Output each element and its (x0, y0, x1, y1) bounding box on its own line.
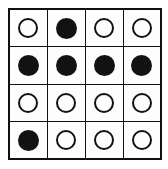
cell-inner-r0c1 (48, 10, 85, 46)
cell-inner-r1c3 (124, 47, 161, 84)
grid-cell-r0c2[interactable] (85, 9, 123, 47)
grid-cell-r2c1[interactable] (47, 84, 85, 122)
cell-inner-r2c1 (48, 85, 85, 122)
token-r1c3 (131, 55, 152, 76)
cell-inner-r1c1 (48, 47, 85, 84)
grid-cell-r1c3[interactable] (123, 47, 161, 85)
circle-grid (8, 8, 162, 160)
grid-row (9, 122, 161, 160)
circle-grid-figure (0, 0, 168, 169)
cell-inner-r3c0 (10, 122, 47, 158)
token-r0c3 (132, 18, 152, 38)
grid-row (9, 47, 161, 85)
token-r0c1 (56, 18, 77, 39)
token-r2c3 (132, 93, 152, 113)
grid-cell-r1c1[interactable] (47, 47, 85, 85)
token-r1c2 (94, 55, 115, 76)
token-r2c0 (18, 93, 38, 113)
grid-row (9, 9, 161, 47)
token-r1c1 (56, 55, 77, 76)
grid-cell-r1c0[interactable] (9, 47, 47, 85)
token-r3c3 (132, 130, 152, 150)
cell-inner-r2c0 (10, 85, 47, 122)
grid-cell-r3c0[interactable] (9, 122, 47, 160)
token-r2c2 (94, 93, 114, 113)
cell-inner-r3c2 (86, 122, 123, 158)
cell-inner-r0c3 (124, 10, 161, 46)
cell-inner-r0c2 (86, 10, 123, 46)
grid-cell-r3c1[interactable] (47, 122, 85, 160)
cell-inner-r2c2 (86, 85, 123, 122)
grid-cell-r0c0[interactable] (9, 9, 47, 47)
grid-cell-r0c3[interactable] (123, 9, 161, 47)
cell-inner-r0c0 (10, 10, 47, 46)
token-r0c2 (94, 18, 114, 38)
grid-cell-r2c0[interactable] (9, 84, 47, 122)
token-r3c1 (56, 130, 76, 150)
token-r0c0 (18, 18, 38, 38)
grid-row (9, 84, 161, 122)
grid-cell-r3c2[interactable] (85, 122, 123, 160)
token-r3c2 (94, 130, 114, 150)
grid-cell-r1c2[interactable] (85, 47, 123, 85)
grid-cell-r2c2[interactable] (85, 84, 123, 122)
grid-body (9, 9, 161, 159)
cell-inner-r1c0 (10, 47, 47, 84)
grid-cell-r3c3[interactable] (123, 122, 161, 160)
cell-inner-r3c1 (48, 122, 85, 158)
cell-inner-r1c2 (86, 47, 123, 84)
token-r2c1 (56, 93, 76, 113)
grid-cell-r2c3[interactable] (123, 84, 161, 122)
grid-cell-r0c1[interactable] (47, 9, 85, 47)
cell-inner-r3c3 (124, 122, 161, 158)
token-r1c0 (18, 55, 39, 76)
cell-inner-r2c3 (124, 85, 161, 122)
token-r3c0 (18, 130, 39, 151)
